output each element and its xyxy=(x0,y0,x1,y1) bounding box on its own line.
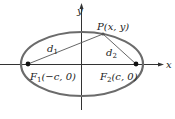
focus-f1-point xyxy=(26,62,31,67)
f1-coords: (−c, 0) xyxy=(41,71,76,82)
f2-coords: (c, 0) xyxy=(111,71,137,82)
focus-f1-label: F1(−c, 0) xyxy=(29,71,76,84)
d1-label: d1 xyxy=(47,43,58,56)
y-axis-label: y xyxy=(76,5,83,16)
d1-line xyxy=(28,34,103,64)
d2-sub: 2 xyxy=(112,52,116,60)
ellipse-diagram: y x P(x, y) d1 d2 F1(−c, 0) F2(c, 0) xyxy=(0,0,175,119)
point-p xyxy=(101,32,104,35)
x-axis-arrow xyxy=(158,63,164,67)
d2-label: d2 xyxy=(106,47,117,60)
point-p-label: P(x, y) xyxy=(96,21,129,32)
focus-f2-point xyxy=(134,62,139,67)
d1-sub: 1 xyxy=(53,48,57,56)
x-axis-label: x xyxy=(166,59,172,70)
